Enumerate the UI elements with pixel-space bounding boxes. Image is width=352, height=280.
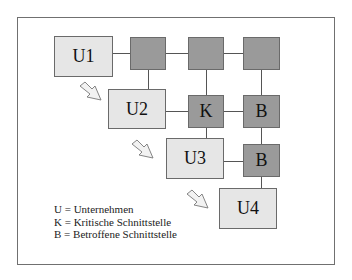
arrow-down-right-icon	[131, 139, 156, 161]
interface-b1-label: B	[255, 101, 267, 122]
interface-affected-b2: B	[243, 144, 280, 177]
connector-d3-b1	[261, 70, 262, 95]
connector-k-b1	[224, 111, 243, 112]
interface-box-2	[188, 37, 224, 70]
enterprise-u4-label: U4	[237, 198, 259, 219]
legend-item-b: B = Betroffene Schnittstelle	[54, 228, 177, 241]
connector-b2-u4	[261, 177, 262, 188]
enterprise-u1: U1	[54, 36, 113, 77]
legend-item-u: U = Unternehmen	[54, 203, 177, 216]
enterprise-u3-label: U3	[184, 148, 206, 169]
connector-k-u3	[206, 128, 207, 138]
enterprise-u4: U4	[219, 188, 277, 229]
interface-critical-k: K	[188, 95, 224, 128]
arrow-down-right-icon	[186, 189, 211, 211]
connector-u1-d1	[113, 53, 130, 54]
interface-box-1	[130, 37, 166, 70]
enterprise-u3: U3	[166, 138, 224, 179]
connector-u3-b2	[224, 161, 243, 162]
connector-b1-b2	[261, 128, 262, 144]
legend-item-k: K = Kritische Schnittstelle	[54, 216, 177, 229]
interface-box-3	[243, 37, 280, 70]
enterprise-u2-label: U2	[126, 99, 148, 120]
interface-k-label: K	[200, 101, 213, 122]
legend: U = Unternehmen K = Kritische Schnittste…	[54, 203, 177, 241]
enterprise-u1-label: U1	[73, 46, 95, 67]
interface-affected-b1: B	[243, 95, 280, 128]
connector-d1-u2	[148, 70, 149, 89]
arrow-down-right-icon	[79, 81, 104, 103]
connector-d2-k	[206, 70, 207, 95]
connector-d1-d2	[166, 53, 188, 54]
connector-d2-d3	[224, 53, 243, 54]
interface-b2-label: B	[255, 150, 267, 171]
enterprise-u2: U2	[108, 89, 166, 129]
connector-u2-k	[166, 111, 188, 112]
